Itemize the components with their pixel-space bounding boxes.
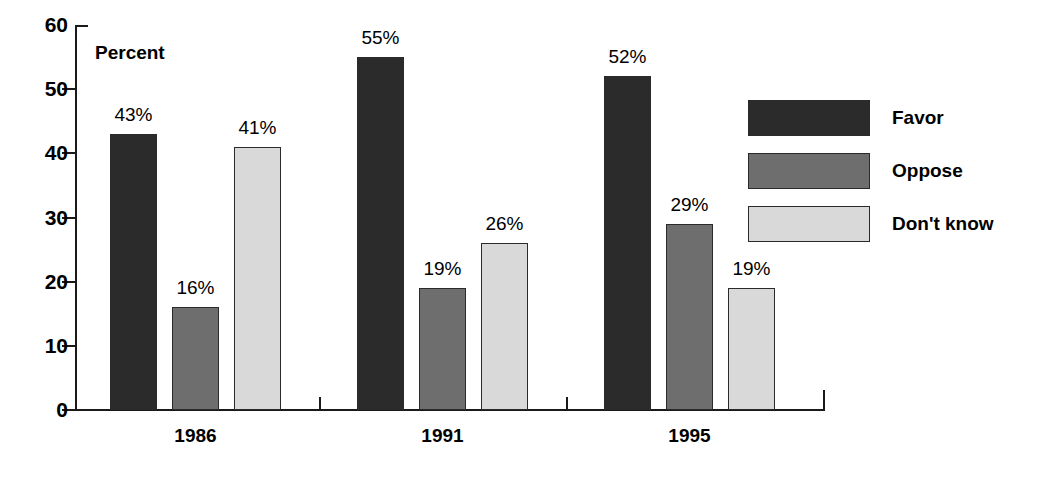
- legend-label: Oppose: [892, 160, 963, 182]
- bar-value-label: 55%: [343, 27, 418, 49]
- y-axis-tick-label: 60: [22, 14, 68, 35]
- bar-oppose-1995[interactable]: [666, 224, 713, 410]
- bar-value-label: 19%: [405, 258, 480, 280]
- legend-item-favor[interactable]: Favor: [748, 100, 994, 136]
- x-axis-group-label-1995: 1995: [630, 425, 750, 447]
- legend-swatch: [748, 206, 870, 242]
- bar-don-t-know-1986[interactable]: [234, 147, 281, 410]
- y-axis-tick-label: 10: [22, 335, 68, 356]
- bar-value-label: 43%: [96, 104, 171, 126]
- bar-value-label: 29%: [652, 194, 727, 216]
- legend-item-oppose[interactable]: Oppose: [748, 153, 994, 189]
- bar-don-t-know-1995[interactable]: [728, 288, 775, 410]
- bar-favor-1991[interactable]: [357, 57, 404, 410]
- bar-favor-1995[interactable]: [604, 76, 651, 410]
- legend-swatch: [748, 100, 870, 136]
- y-axis-tick-label: 30: [22, 207, 68, 228]
- bar-chart-figure: 6050403020100 Percent 43%16%41%55%19%26%…: [0, 0, 1039, 479]
- legend-label: Favor: [892, 107, 944, 129]
- y-axis-tick-label: 40: [22, 142, 68, 163]
- bar-favor-1986[interactable]: [110, 134, 157, 410]
- x-axis-group-label-1991: 1991: [383, 425, 503, 447]
- bar-value-label: 16%: [158, 277, 233, 299]
- bar-oppose-1986[interactable]: [172, 307, 219, 410]
- plot-area: [75, 25, 825, 410]
- y-axis-tick-label: 20: [22, 271, 68, 292]
- y-axis-tick-label: 50: [22, 78, 68, 99]
- bar-oppose-1991[interactable]: [419, 288, 466, 410]
- bar-don-t-know-1991[interactable]: [481, 243, 528, 410]
- legend-label: Don't know: [892, 213, 994, 235]
- bar-value-label: 52%: [590, 46, 665, 68]
- x-axis-group-label-1986: 1986: [136, 425, 256, 447]
- legend-swatch: [748, 153, 870, 189]
- chart-legend: FavorOpposeDon't know: [748, 100, 994, 259]
- bar-value-label: 19%: [714, 258, 789, 280]
- bar-value-label: 26%: [467, 213, 542, 235]
- bar-value-label: 41%: [220, 117, 295, 139]
- legend-item-don-t-know[interactable]: Don't know: [748, 206, 994, 242]
- y-axis-tick-label: 0: [22, 399, 68, 420]
